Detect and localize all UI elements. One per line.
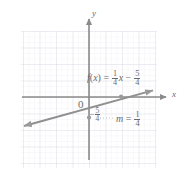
x-axis-label: x xyxy=(172,90,176,99)
intercept-sign: − xyxy=(89,109,94,119)
origin-label: 0 xyxy=(78,99,84,110)
slope-symbol: m xyxy=(116,113,123,124)
close-paren: ) xyxy=(98,72,101,83)
equals-sign: = xyxy=(103,72,109,83)
equation-variable: x xyxy=(119,72,123,83)
y-intercept-denominator: 4 xyxy=(95,115,101,122)
y-intercept-label: −54 xyxy=(89,107,101,123)
y-axis-label: y xyxy=(92,9,96,18)
minus-sign: − xyxy=(126,72,132,83)
slope-value-denominator: 4 xyxy=(134,120,140,128)
point-x-intercept xyxy=(119,95,123,99)
slope-denominator: 4 xyxy=(112,79,118,87)
slope-equals-sign: = xyxy=(126,113,132,124)
slope-annotation: m = 14 xyxy=(116,111,141,128)
slope-fraction: 14 xyxy=(112,70,118,87)
intercept-denominator: 4 xyxy=(134,79,140,87)
coordinate-plane xyxy=(0,0,186,175)
graph-figure: y x 0 f(x) = 14x − 54 m = 14 −54 xyxy=(0,0,186,175)
y-intercept-fraction: 54 xyxy=(95,107,101,123)
slope-value-fraction: 14 xyxy=(134,111,140,128)
intercept-fraction: 54 xyxy=(134,70,140,87)
equation-annotation: f(x) = 14x − 54 xyxy=(87,70,141,87)
